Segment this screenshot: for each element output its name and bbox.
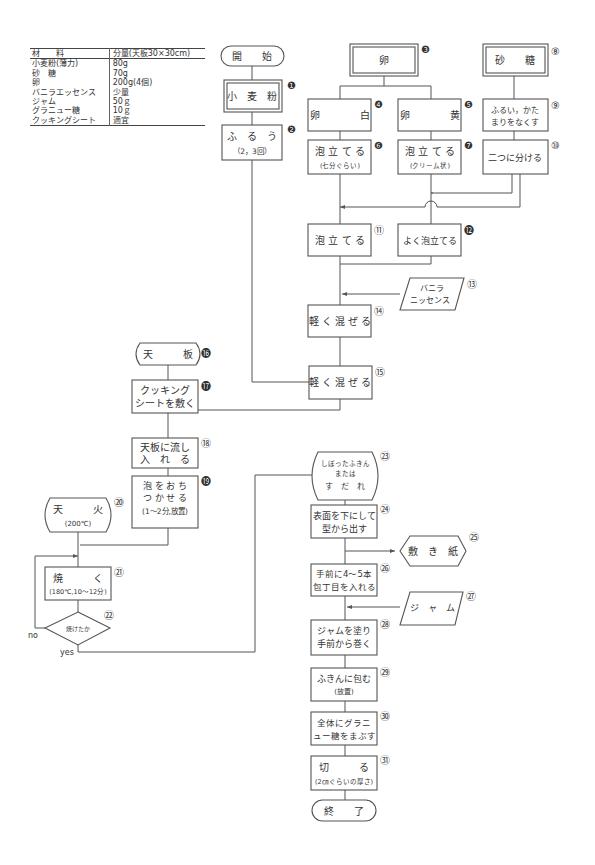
step-29-number: ㉙ — [380, 667, 390, 678]
step-29-line2: (放置) — [334, 687, 354, 696]
step-28-line2: 手前から巻く — [317, 638, 371, 649]
step-13-line2: ニッセンス — [410, 296, 450, 305]
step-7-label: 泡 立 て る — [405, 145, 455, 157]
step-21-number: ㉑ — [114, 567, 124, 578]
step-11-label: 泡 立 て る — [315, 234, 365, 246]
step-16-label: 天 板 — [143, 348, 193, 360]
step-11-number: ⑪ — [374, 225, 384, 236]
step-3-number: ❸ — [421, 44, 430, 55]
step-21-line1: 焼 く — [53, 573, 103, 584]
step-2-number: ❷ — [287, 124, 296, 135]
step-26-number: ㉖ — [380, 563, 390, 574]
step-7-sub: (クリーム状) — [410, 161, 450, 170]
step-24-line1: 表面を下にして — [313, 510, 376, 521]
step-14-label: 軽 く 混 ぜ る — [309, 316, 372, 327]
step-13-line1: バニラ — [420, 284, 444, 293]
step-5-label: 卵 黄 — [400, 109, 460, 121]
step-24-line2: 型から出す — [322, 523, 367, 534]
step-3-label: 卵 — [379, 55, 389, 66]
step-1-label: 小 麦 粉 — [227, 90, 277, 102]
step-13-number: ⑬ — [467, 279, 477, 290]
step-17-number: ⓱ — [201, 381, 211, 392]
connector-lines — [35, 66, 520, 800]
step-1-number: ❶ — [287, 80, 296, 91]
step-9-line2: まりをなくす — [491, 118, 539, 127]
step-31-number: ㉛ — [380, 755, 390, 766]
step-10-number: ⑩ — [551, 140, 560, 151]
step-19-line3: (1～2分,放置) — [142, 506, 188, 516]
start-label: 開 始 — [232, 50, 272, 62]
step-23-line1: しぼったふきん — [321, 460, 370, 468]
step-13-input — [400, 278, 464, 310]
step-18-number: ⑱ — [201, 438, 211, 449]
step-9-number: ⑨ — [551, 100, 560, 111]
step-4-number: ❹ — [374, 99, 383, 110]
step-28-line1: ジャムを塗り — [317, 625, 371, 636]
step-25-label: 敷 き 紙 — [408, 545, 458, 557]
step-30-number: ㉚ — [380, 711, 390, 722]
step-5-number: ❺ — [464, 99, 473, 110]
end-label: 終 了 — [324, 805, 364, 817]
step-15-label: 軽 く 混 ぜ る — [309, 377, 372, 388]
step-12-label: よく泡立てる — [403, 235, 457, 246]
step-7-number: ❼ — [464, 140, 473, 151]
step-8-label: 砂 糖 — [495, 54, 535, 66]
step-17-line2: シートを敷く — [135, 397, 195, 409]
step-18-line1: 天板に流し — [140, 441, 190, 453]
step-27-number: ㉗ — [466, 591, 476, 602]
flowchart: 開 始 小 麦 粉 ふ る う （2，3回） 卵 卵 白 卵 黄 泡 立 て る… — [0, 0, 595, 865]
step-20-number: ⑳ — [114, 497, 124, 508]
step-22-label: 焼けたか — [66, 625, 90, 633]
step-6-number: ❻ — [374, 140, 383, 151]
step-25-number: ㉕ — [469, 532, 479, 543]
step-24-number: ㉔ — [380, 504, 390, 515]
step-20-line1: 天 火 — [53, 504, 103, 515]
step-22-number: ㉒ — [104, 610, 114, 621]
step-15-number: ⑮ — [375, 367, 385, 378]
step-31-line1: 切 る — [319, 762, 369, 773]
step-30-line2: ュー糖をまぶす — [313, 731, 376, 741]
step-30-line1: 全体にグラニ — [317, 718, 371, 728]
step-17-line1: クッキング — [140, 384, 190, 396]
step-8-number: ⑧ — [551, 46, 560, 57]
step-31-line2: (2㎝ぐらいの厚さ) — [315, 778, 373, 786]
step-10-label: 二つに分ける — [488, 153, 542, 163]
step-19-line2: つ か せ る — [143, 493, 188, 503]
step-29-line1: ふきんに包む — [317, 673, 371, 684]
step-23-line2: または — [335, 470, 356, 478]
step-9-line1: ふるい，かた — [491, 106, 539, 115]
step-6-sub: (七分ぐらい) — [320, 161, 360, 170]
step-16-number: ⓰ — [201, 348, 211, 359]
step-18-line2: 入 れ る — [140, 454, 190, 465]
step-19-number: ⓳ — [201, 476, 211, 487]
step-29-box — [311, 668, 377, 701]
decision-yes-label: yes — [60, 648, 74, 657]
step-28-number: ㉘ — [380, 619, 390, 630]
step-27-label: ジ ャ ム — [410, 603, 455, 613]
step-21-line2: (180℃,10～12分) — [49, 587, 106, 596]
decision-no-label: no — [28, 631, 38, 640]
step-14-number: ⑭ — [374, 306, 384, 317]
step-4-label: 卵 白 — [310, 109, 370, 121]
step-26-line2: 包丁目を入れる — [313, 582, 376, 592]
step-12-number: ⓬ — [464, 225, 474, 236]
step-2-label: ふ る う — [227, 131, 277, 142]
step-23-line3: す だ れ — [325, 482, 365, 491]
step-20-line2: (200℃) — [65, 520, 92, 528]
step-19-line1: 泡 を お ち — [143, 480, 188, 491]
step-26-line1: 手前に4～5本 — [316, 569, 372, 579]
step-6-label: 泡 立 て る — [315, 145, 365, 157]
step-2-sub: （2，3回） — [233, 147, 271, 156]
step-23-number: ㉓ — [380, 451, 390, 462]
